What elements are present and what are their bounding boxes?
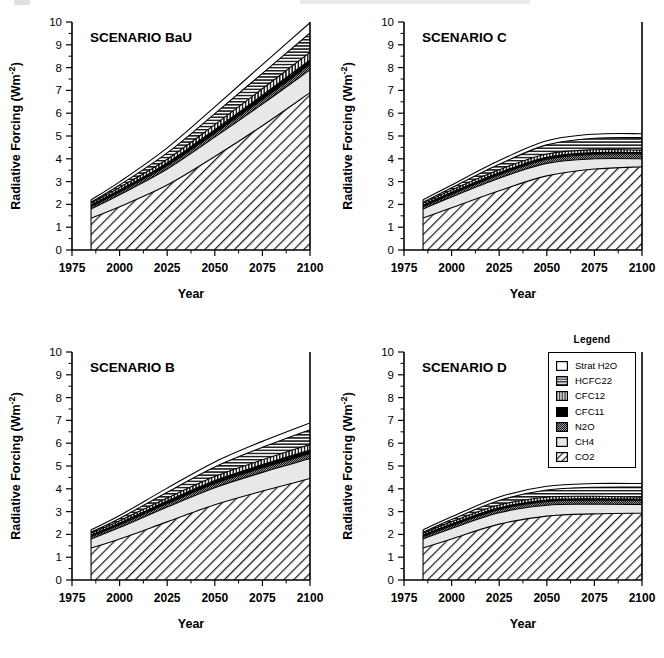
legend-item-strat-h2o: Strat H2O — [556, 358, 632, 373]
y-tick-label: 4 — [56, 483, 63, 495]
legend-title: Legend — [548, 334, 636, 345]
n2o-swatch-icon — [556, 422, 568, 432]
y-tick-label: 1 — [388, 551, 394, 563]
x-tick-label: 2100 — [629, 261, 656, 275]
x-tick-label: 2050 — [201, 261, 228, 275]
figure-canvas: 012345678910197520002025205020752100 SCE… — [0, 0, 664, 658]
legend-item-label: HCFC22 — [575, 376, 612, 386]
strat-h2o-swatch-icon — [556, 361, 568, 371]
y-tick-label: 2 — [388, 528, 394, 540]
legend-item-label: N2O — [575, 422, 595, 432]
y-tick-label: 4 — [388, 153, 395, 165]
y-tick-label: 5 — [388, 130, 394, 142]
y-tick-label: 0 — [388, 574, 394, 586]
ch4-swatch-icon — [556, 437, 568, 447]
legend-item-label: CFC12 — [575, 391, 605, 401]
x-tick-label: 2075 — [249, 591, 276, 605]
y-tick-label: 7 — [388, 414, 394, 426]
x-tick-label: 2000 — [106, 591, 133, 605]
y-tick-label: 2 — [56, 198, 62, 210]
y-tick-label: 8 — [56, 392, 62, 404]
legend-item-ch4: CH4 — [556, 434, 632, 449]
y-tick-label: 3 — [388, 506, 394, 518]
y-tick-label: 0 — [56, 574, 62, 586]
y-tick-label: 6 — [56, 437, 62, 449]
x-tick-label: 2100 — [297, 261, 324, 275]
x-tick-label: 2050 — [201, 591, 228, 605]
x-axis-label: Year — [178, 287, 205, 301]
legend-item-label: Strat H2O — [575, 361, 617, 371]
y-tick-label: 7 — [56, 84, 62, 96]
x-tick-label: 2000 — [438, 591, 465, 605]
y-tick-label: 3 — [56, 506, 62, 518]
y-tick-label: 10 — [49, 346, 62, 358]
y-tick-label: 8 — [388, 62, 394, 74]
panel-scenario-b: 012345678910197520002025205020752100 SCE… — [0, 338, 332, 658]
x-tick-label: 2100 — [297, 591, 324, 605]
y-tick-label: 4 — [56, 153, 63, 165]
y-tick-label: 1 — [56, 221, 62, 233]
y-tick-label: 0 — [56, 244, 62, 256]
legend-item-hcfc22: HCFC22 — [556, 373, 632, 388]
y-tick-label: 5 — [56, 130, 62, 142]
y-tick-label: 5 — [56, 460, 62, 472]
x-tick-label: 1975 — [59, 261, 86, 275]
x-tick-label: 1975 — [391, 261, 418, 275]
x-tick-label: 2050 — [533, 591, 560, 605]
co2-swatch-icon — [556, 452, 568, 462]
y-tick-label: 10 — [49, 16, 62, 28]
y-tick-label: 3 — [388, 176, 394, 188]
panel-scenario-bau: 012345678910197520002025205020752100 SCE… — [0, 8, 332, 328]
y-tick-label: 6 — [56, 107, 62, 119]
y-tick-label: 3 — [56, 176, 62, 188]
legend-item-label: CFC11 — [575, 407, 604, 417]
cfc12-swatch-icon — [556, 391, 568, 401]
y-tick-label: 1 — [56, 551, 62, 563]
panel-title: SCENARIO B — [90, 360, 175, 375]
y-axis-label: Radiative Forcing (Wm-2) — [7, 62, 23, 210]
x-tick-label: 2075 — [581, 261, 608, 275]
y-tick-label: 7 — [56, 414, 62, 426]
panel-title: SCENARIO D — [422, 360, 507, 375]
y-tick-label: 9 — [388, 369, 394, 381]
y-tick-label: 9 — [56, 369, 62, 381]
y-tick-label: 6 — [388, 107, 394, 119]
y-tick-label: 9 — [388, 39, 394, 51]
y-tick-label: 6 — [388, 437, 394, 449]
legend-list: Strat H2O HCFC22 CFC12 CFC11 N2O CH4 CO2 — [556, 358, 632, 465]
legend-item-cfc12: CFC12 — [556, 389, 632, 404]
x-tick-label: 2075 — [581, 591, 608, 605]
legend-item-co2: CO2 — [556, 450, 632, 465]
x-axis-label: Year — [510, 617, 537, 631]
panel-scenario-c: 012345678910197520002025205020752100 SCE… — [332, 8, 664, 328]
y-tick-label: 8 — [388, 392, 394, 404]
legend-item-cfc11: CFC11 — [556, 404, 632, 419]
panel-title: SCENARIO BaU — [90, 30, 192, 45]
scan-artifact-top-right — [300, 0, 530, 4]
panel-title: SCENARIO C — [422, 30, 507, 45]
y-tick-label: 10 — [381, 346, 394, 358]
y-tick-label: 9 — [56, 39, 62, 51]
x-tick-label: 2025 — [486, 261, 513, 275]
legend-item-label: CH4 — [575, 437, 594, 447]
y-tick-label: 2 — [56, 528, 62, 540]
x-tick-label: 2025 — [486, 591, 513, 605]
x-tick-label: 2025 — [154, 591, 181, 605]
y-tick-label: 8 — [56, 62, 62, 74]
x-tick-label: 2000 — [106, 261, 133, 275]
y-tick-label: 5 — [388, 460, 394, 472]
x-tick-label: 2025 — [154, 261, 181, 275]
hcfc22-swatch-icon — [556, 376, 568, 386]
y-tick-label: 10 — [381, 16, 394, 28]
x-axis-label: Year — [178, 617, 205, 631]
x-axis-label: Year — [510, 287, 537, 301]
x-tick-label: 2075 — [249, 261, 276, 275]
y-tick-label: 1 — [388, 221, 394, 233]
x-tick-label: 1975 — [59, 591, 86, 605]
y-axis-label: Radiative Forcing (Wm-2) — [339, 62, 355, 210]
x-tick-label: 2050 — [533, 261, 560, 275]
legend-item-n2o: N2O — [556, 419, 632, 434]
y-tick-label: 2 — [388, 198, 394, 210]
y-axis-label: Radiative Forcing (Wm-2) — [7, 392, 23, 540]
x-tick-label: 2000 — [438, 261, 465, 275]
